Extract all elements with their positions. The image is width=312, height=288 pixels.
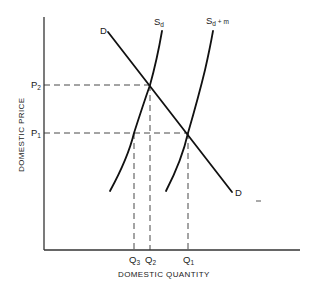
demand-curve	[108, 32, 232, 192]
p1-label: P1	[31, 127, 41, 139]
demand-label-top: D	[100, 25, 107, 36]
q1-label: Q1	[183, 254, 194, 266]
total-supply-curve	[166, 31, 213, 191]
q2-label: Q2	[145, 254, 156, 266]
total-supply-label: Sd + m	[206, 15, 229, 27]
supply-demand-diagram: D D Sd Sd + m P2 P1 Q3 Q2 Q1 DOMESTIC QU…	[0, 0, 312, 288]
domestic-supply-label: Sd	[154, 16, 164, 28]
p2-label: P2	[31, 79, 41, 91]
domestic-supply-curve	[110, 31, 162, 191]
demand-label-bottom: D	[235, 187, 242, 198]
y-axis-title: DOMESTIC PRICE	[17, 98, 26, 173]
q3-label: Q3	[129, 254, 140, 266]
x-axis-title: DOMESTIC QUANTITY	[118, 270, 210, 279]
